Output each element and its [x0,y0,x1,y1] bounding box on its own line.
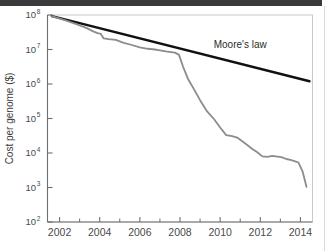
y-tick-label: 10 [25,9,36,20]
chart-svg: 102103104105106107108 200220042006200820… [0,6,331,251]
y-tick-exponent: 2 [37,215,41,222]
x-tick-label: 2006 [128,226,152,238]
x-tick-label: 2010 [208,226,232,238]
series-line-moore-s-law [52,16,310,81]
y-tick-exponent: 6 [37,77,41,84]
y-tick-label: 10 [25,78,36,89]
y-tick-exponent: 4 [37,146,41,153]
y-tick-label: 10 [25,44,36,55]
data-series [52,16,310,187]
y-tick-exponent: 7 [37,42,41,49]
x-tick-labels: 2002200420062008201020122014 [48,226,312,238]
y-tick-exponent: 8 [37,8,41,15]
x-tick-label: 2002 [48,226,72,238]
cost-per-genome-chart: 102103104105106107108 200220042006200820… [0,6,331,251]
x-tick-label: 2008 [168,226,192,238]
y-tick-label: 10 [25,182,36,193]
series-line-cost-per-genome [52,16,307,187]
y-tick-label: 10 [25,216,36,227]
y-tick-exponent: 5 [37,111,41,118]
x-tick-label: 2004 [88,226,112,238]
chart-annotations: Moore's law [214,39,268,50]
figure-panel: 102103104105106107108 200220042006200820… [0,0,331,251]
x-tick-label: 2014 [289,226,313,238]
x-tick-label: 2012 [249,226,273,238]
y-axis-title: Cost per genome ($) [4,73,15,165]
annotation-moores-law: Moore's law [214,39,268,50]
plot-frame [48,15,313,222]
y-tick-label: 10 [25,147,36,158]
y-tick-exponent: 3 [37,180,41,187]
plot-area-box [48,15,313,222]
y-tick-label: 10 [25,113,36,124]
y-tick-labels: 102103104105106107108 [25,8,40,228]
y-axis-title-text: Cost per genome ($) [4,73,15,165]
